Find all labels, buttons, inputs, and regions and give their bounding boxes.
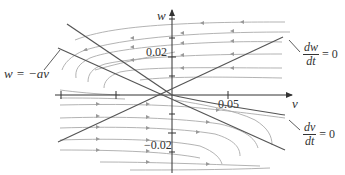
phase-plane-plot xyxy=(0,0,345,175)
tick-label-x: 0.05 xyxy=(218,98,239,110)
w-axis-label: w xyxy=(157,9,166,22)
v-axis-label: v xyxy=(292,97,298,110)
label-dw-dt-zero: dwdt = 0 xyxy=(303,41,338,67)
label-w-equals-minus-av: w = −av xyxy=(4,67,49,80)
label-dv-dt-zero: dvdt = 0 xyxy=(303,121,335,147)
tick-label-y-pos: 0.02 xyxy=(146,46,167,58)
axes xyxy=(55,10,292,173)
tick-label-y-neg: −0.02 xyxy=(144,139,172,151)
